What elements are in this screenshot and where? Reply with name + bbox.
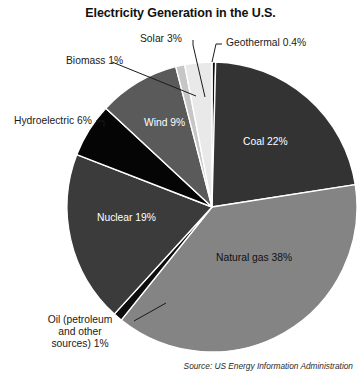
slice-label-oil-line3: sources) 1% (26, 338, 134, 350)
slice-label-hydroelectric: Hydroelectric 6% (14, 115, 92, 127)
slice-label-biomass: Biomass 1% (66, 55, 123, 67)
slice-label-nuclear: Nuclear 19% (97, 212, 156, 223)
slice-label-natural-gas: Natural gas 38% (216, 252, 292, 263)
slice-label-coal: Coal 22% (243, 136, 288, 147)
pie-chart-figure: Electricity Generation in the U.S. Solar… (0, 0, 361, 378)
leader-line-geothermal2 (212, 44, 216, 62)
slice-label-solar: Solar 3% (140, 33, 182, 45)
slice-label-geothermal: Geothermal 0.4% (226, 37, 306, 49)
slice-label-wind: Wind 9% (144, 117, 185, 128)
slice-label-oil-line2: and other (26, 326, 134, 338)
source-attribution: Source: US Energy Information Administra… (184, 361, 353, 371)
pie-slice-coal[interactable] (212, 62, 355, 207)
slice-label-oil: Oil (petroleum and other sources) 1% (26, 314, 134, 350)
slice-label-oil-line1: Oil (petroleum (26, 314, 134, 326)
pie-slices-group (67, 62, 357, 352)
